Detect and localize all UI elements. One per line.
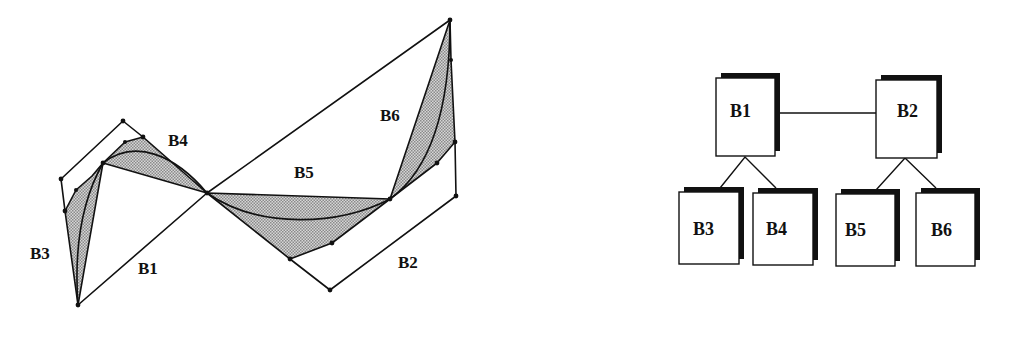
tree-node-b3: B3	[679, 187, 744, 264]
label-b4: B4	[168, 131, 188, 150]
figure-canvas: B3 B1 B4 B5 B6 B2 B1 B2 B3	[0, 0, 1020, 341]
tree-node-b2: B2	[876, 75, 942, 158]
b5-shaded-region	[207, 193, 390, 259]
tree-node-b3-label: B3	[693, 219, 714, 239]
label-b2: B2	[398, 253, 418, 272]
tree-node-b1: B1	[716, 73, 780, 156]
tree-node-b6: B6	[916, 188, 980, 266]
tree-node-b5: B5	[836, 189, 900, 266]
b3-shaded-region	[65, 163, 103, 305]
tree-node-b1-label: B1	[730, 101, 751, 121]
label-b3: B3	[30, 244, 50, 263]
tree-node-b5-label: B5	[845, 220, 866, 240]
tree-node-b2-label: B2	[897, 101, 918, 121]
tree-node-b4: B4	[753, 188, 818, 265]
label-b6: B6	[380, 106, 400, 125]
tree-node-b6-label: B6	[931, 220, 952, 240]
label-b1: B1	[138, 259, 158, 278]
label-b5: B5	[294, 163, 314, 182]
b3-bracket-edge	[61, 179, 65, 211]
hierarchy-tree-diagram: B1 B2 B3 B4 B5 B6	[679, 73, 980, 266]
tree-node-b4-label: B4	[766, 219, 787, 239]
connector-b2-children	[876, 158, 936, 190]
b4-shaded-region	[103, 137, 207, 193]
